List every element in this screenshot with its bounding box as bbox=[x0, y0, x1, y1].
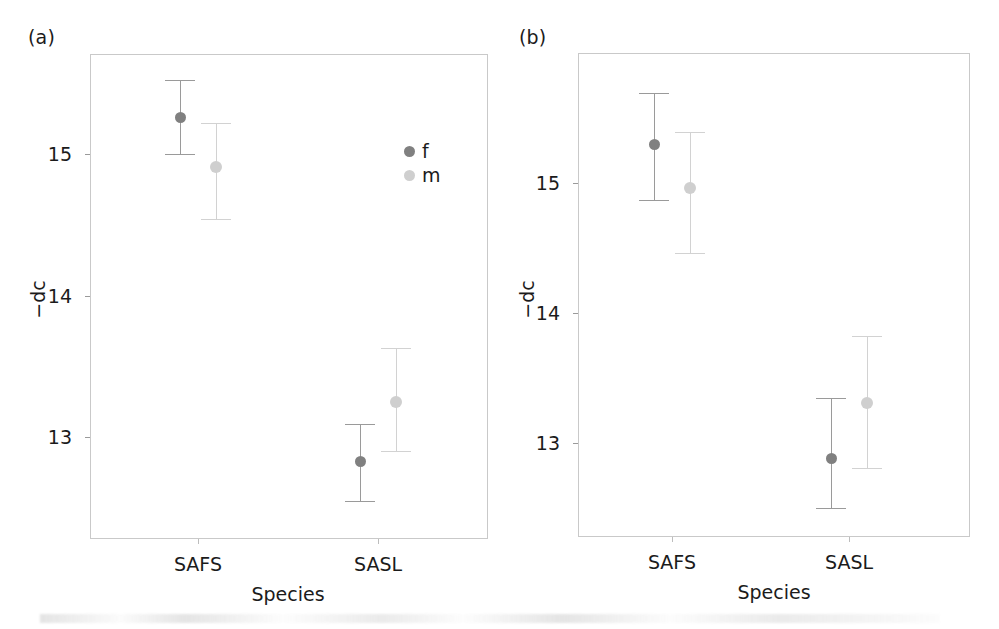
y-tick-label: 14 bbox=[524, 304, 560, 323]
error-bar-cap bbox=[345, 501, 375, 502]
error-bar-cap bbox=[201, 219, 231, 220]
y-tick-mark bbox=[85, 437, 90, 438]
x-tick-label: SAFS bbox=[612, 553, 732, 572]
x-tick-mark bbox=[672, 537, 673, 542]
data-point-marker-m[interactable] bbox=[390, 396, 402, 408]
y-tick-label: 13 bbox=[524, 434, 560, 453]
y-tick-label: 15 bbox=[36, 145, 72, 164]
y-tick-mark bbox=[85, 154, 90, 155]
x-tick-mark bbox=[849, 537, 850, 542]
panel-b-tag: (b) bbox=[519, 28, 547, 47]
error-bar-cap bbox=[675, 253, 705, 254]
error-bar-cap bbox=[201, 123, 231, 124]
error-bar-cap bbox=[381, 348, 411, 349]
figure-caption-partial bbox=[40, 614, 940, 623]
error-bar-cap bbox=[675, 132, 705, 133]
error-bar-cap bbox=[852, 336, 882, 337]
legend-label-m: m bbox=[422, 164, 441, 186]
data-point-marker-f[interactable] bbox=[175, 112, 186, 123]
y-tick-label: 14 bbox=[36, 287, 72, 306]
data-point-marker-m[interactable] bbox=[861, 397, 873, 409]
x-tick-mark bbox=[198, 539, 199, 544]
error-bar-cap bbox=[852, 468, 882, 469]
y-tick-label: 13 bbox=[36, 428, 72, 447]
error-bar-cap bbox=[165, 80, 195, 81]
error-bar-cap bbox=[816, 398, 846, 399]
panel-b: (b) −dc Species 151413SAFSSASL bbox=[499, 0, 999, 629]
legend-label-f: f bbox=[422, 140, 429, 162]
legend-swatch-m-icon bbox=[404, 170, 415, 181]
error-bar-cap bbox=[816, 508, 846, 509]
y-tick-mark bbox=[573, 443, 578, 444]
panel-a-plot-frame bbox=[90, 54, 488, 539]
data-point-marker-f[interactable] bbox=[826, 453, 837, 464]
error-bar-cap bbox=[381, 451, 411, 452]
error-bar-cap bbox=[165, 154, 195, 155]
y-tick-mark bbox=[85, 296, 90, 297]
panel-a-tag: (a) bbox=[28, 28, 55, 47]
error-bar-cap bbox=[639, 200, 669, 201]
x-tick-label: SASL bbox=[318, 555, 438, 574]
y-tick-label: 15 bbox=[524, 174, 560, 193]
x-tick-mark bbox=[378, 539, 379, 544]
data-point-marker-f[interactable] bbox=[355, 456, 366, 467]
error-bar-cap bbox=[345, 424, 375, 425]
error-bar-cap bbox=[639, 93, 669, 94]
data-point-marker-m[interactable] bbox=[210, 161, 222, 173]
panel-b-x-axis-label: Species bbox=[634, 583, 914, 602]
panel-a-x-axis-label: Species bbox=[148, 585, 428, 604]
legend-swatch-f-icon bbox=[404, 146, 415, 157]
x-tick-label: SAFS bbox=[138, 555, 258, 574]
x-tick-label: SASL bbox=[789, 553, 909, 572]
data-point-marker-f[interactable] bbox=[649, 139, 660, 150]
figure-root: (a) −dc Species 151413SAFSSASL f m (b) −… bbox=[0, 0, 999, 629]
y-tick-mark bbox=[573, 183, 578, 184]
y-tick-mark bbox=[573, 313, 578, 314]
panel-a: (a) −dc Species 151413SAFSSASL f m bbox=[0, 0, 500, 629]
panel-b-plot-frame bbox=[578, 53, 970, 537]
